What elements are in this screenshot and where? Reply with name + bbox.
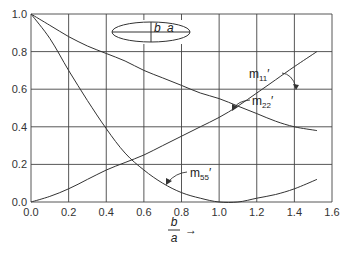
x-tick-label: 0.6 xyxy=(136,206,151,218)
svg-text:b: b xyxy=(171,215,178,229)
x-tick-label: 1.0 xyxy=(211,206,226,218)
y-tick-label: 0.8 xyxy=(12,46,27,58)
arrow-right-icon: → xyxy=(185,223,197,237)
svg-text:m55′: m55′ xyxy=(190,166,212,182)
svg-text:a: a xyxy=(171,231,178,245)
annotation-m55: m55′ xyxy=(166,166,212,185)
y-tick-label: 0.4 xyxy=(12,121,27,133)
x-axis-label: b a → xyxy=(168,215,197,245)
svg-text:m22′: m22′ xyxy=(252,94,274,110)
x-tick-label: 0.2 xyxy=(61,206,76,218)
svg-text:m11′: m11′ xyxy=(249,67,270,83)
inset-ellipse: b a xyxy=(108,20,194,44)
annotation-m22: m22′ xyxy=(232,94,274,111)
y-tick-label: 1.0 xyxy=(12,8,27,20)
x-tick-label: 0.4 xyxy=(99,206,114,218)
y-tick-label: 0.2 xyxy=(12,158,27,170)
inset-b-label: b xyxy=(154,21,161,35)
x-tick-label: 1.4 xyxy=(287,206,302,218)
inset-a-label: a xyxy=(167,21,174,35)
y-tick-label: 0.0 xyxy=(12,196,27,208)
x-tick-label: 1.2 xyxy=(249,206,264,218)
y-tick-label: 0.6 xyxy=(12,83,27,95)
chart: 0.00.20.40.60.81.01.21.41.60.00.20.40.60… xyxy=(0,0,346,253)
x-tick-label: 1.6 xyxy=(324,206,339,218)
